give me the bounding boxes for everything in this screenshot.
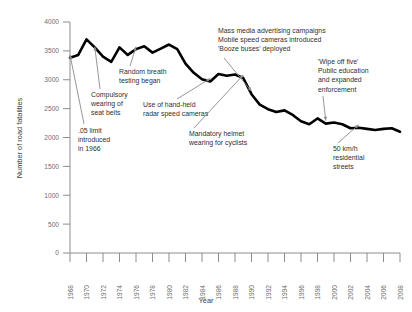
annotation-text-line: enforcement <box>318 86 356 93</box>
chart-canvas: 05001000150020002500300035004000 Number … <box>0 0 412 312</box>
x-tick-label: 1992 <box>265 285 272 300</box>
x-tick-label: 1994 <box>281 285 288 300</box>
y-tick-label: 0 <box>55 249 59 256</box>
annotation-text-line: Mobile speed cameras introduced <box>218 36 322 44</box>
x-tick-label: 1982 <box>182 285 189 300</box>
annotation-text: Mandatory helmetwearing for cyclists <box>188 130 248 147</box>
y-tick-label: 2500 <box>44 105 59 112</box>
annotation-text-line: Random breath <box>119 68 167 75</box>
annotation-text-line: Mandatory helmet <box>189 130 244 138</box>
y-axis: 05001000150020002500300035004000 Number … <box>15 18 70 256</box>
x-axis: 1968197019721974197619781980198219841986… <box>67 253 404 305</box>
x-tick-label: 1974 <box>116 285 123 300</box>
x-tick-label: 1976 <box>133 285 140 300</box>
annotation-wipe-off-five: 'Wipe off five'Public educationand expan… <box>318 58 369 121</box>
y-axis-title: Number of road fatalities <box>15 97 24 178</box>
annotation-radar-speed-cameras: Use of hand-heldradar speed cameras <box>143 78 210 118</box>
annotation-text-line: Public education <box>318 67 369 74</box>
x-tick-label: 1970 <box>83 285 90 300</box>
x-tick-label: 2000 <box>331 285 338 300</box>
annotation-text-line: Compulsory <box>91 91 128 99</box>
annotation-leader-line <box>177 78 210 99</box>
x-tick-label: 1996 <box>298 285 305 300</box>
y-tick-label: 500 <box>48 221 59 228</box>
annotation-residential-speed-limit: 50 km/hresidentialstreets <box>333 125 365 171</box>
y-axis-ticks: 05001000150020002500300035004000 <box>44 18 70 256</box>
y-tick-label: 4000 <box>44 18 59 25</box>
x-tick-label: 1988 <box>232 285 239 300</box>
annotation-text-line: wearing of <box>90 100 123 108</box>
x-tick-label: 2002 <box>347 285 354 300</box>
x-axis-title: Year <box>199 296 214 305</box>
annotation-leader-line <box>194 75 243 128</box>
x-tick-label: 2008 <box>397 285 404 300</box>
annotation-text-line: wearing for cyclists <box>188 139 248 147</box>
annotation-text: 'Wipe off five'Public educationand expan… <box>318 58 369 93</box>
annotation-text-line: Mass media advertising campaigns <box>218 27 326 35</box>
annotation-text: Mass media advertising campaignsMobile s… <box>218 27 326 53</box>
annotation-text: Random breathtesting began <box>119 68 167 85</box>
annotation-text-line: 50 km/h <box>333 145 358 152</box>
annotation-mass-media-campaigns: Mass media advertising campaignsMobile s… <box>218 27 326 91</box>
x-tick-label: 1972 <box>100 285 107 300</box>
annotation-text-line: in 1966 <box>78 145 101 152</box>
x-tick-label: 2006 <box>380 285 387 300</box>
annotation-text-line: residential <box>333 154 365 161</box>
x-axis-ticks: 1968197019721974197619781980198219841986… <box>67 253 404 300</box>
y-tick-label: 1500 <box>44 163 59 170</box>
road-fatalities-chart: 05001000150020002500300035004000 Number … <box>0 0 412 312</box>
annotation-text-line: testing began <box>119 77 161 85</box>
annotation-text-line: radar speed cameras <box>143 110 209 118</box>
annotation-text-line: Use of hand-held <box>143 101 196 108</box>
x-tick-label: 1980 <box>166 285 173 300</box>
y-tick-label: 1000 <box>44 192 59 199</box>
x-tick-label: 1978 <box>149 285 156 300</box>
annotation-text: Use of hand-heldradar speed cameras <box>143 101 209 118</box>
annotation-text-line: and expanded <box>318 76 362 84</box>
annotation-text-line: streets <box>333 163 354 170</box>
annotation-text: 50 km/hresidentialstreets <box>333 145 365 170</box>
x-tick-label: 2004 <box>364 285 371 300</box>
x-tick-label: 1986 <box>215 285 222 300</box>
x-tick-label: 1990 <box>248 285 255 300</box>
x-tick-label: 1968 <box>67 285 74 300</box>
annotation-text-line: 'Booze buses' deployed <box>218 45 291 53</box>
annotation-layer: .05 limitintroducedin 1966Compulsorywear… <box>69 27 369 170</box>
x-tick-label: 1998 <box>314 285 321 300</box>
annotation-leader-line <box>70 55 84 124</box>
annotation-text-line: introduced <box>78 136 110 143</box>
annotation-text: .05 limitintroducedin 1966 <box>78 127 110 152</box>
y-tick-label: 2000 <box>44 134 59 141</box>
y-tick-label: 3500 <box>44 47 59 54</box>
annotation-text-line: seat belts <box>91 109 121 116</box>
annotation-text: Compulsorywearing ofseat belts <box>90 91 128 116</box>
y-tick-label: 3000 <box>44 76 59 83</box>
annotation-text-line: .05 limit <box>78 127 102 134</box>
annotation-text-line: 'Wipe off five' <box>318 58 358 66</box>
